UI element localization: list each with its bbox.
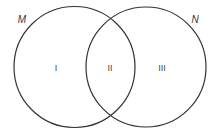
region-iii-label: III <box>158 63 166 73</box>
set-m-circle <box>14 7 135 128</box>
set-n-label: N <box>191 14 199 25</box>
set-m-label: M <box>18 14 27 25</box>
venn-diagram: M N I II III <box>0 0 216 136</box>
region-i-label: I <box>55 63 58 73</box>
region-ii-label: II <box>107 63 112 73</box>
set-n-circle <box>86 7 206 127</box>
